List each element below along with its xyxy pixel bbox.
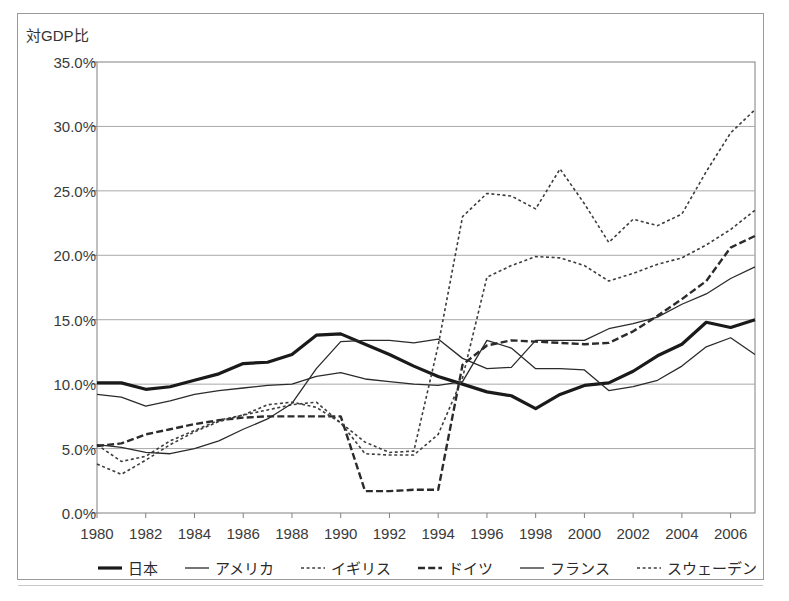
x-tick-label: 2000	[568, 525, 601, 542]
legend-label: ドイツ	[448, 561, 493, 576]
legend-item-イギリス[interactable]: イギリス	[300, 561, 391, 576]
x-tick-label: 1988	[275, 525, 308, 542]
legend-item-日本[interactable]: 日本	[97, 561, 158, 576]
x-tick-label: 1998	[519, 525, 552, 542]
legend-swatch-icon	[519, 563, 545, 573]
chart-legend: 日本アメリカイギリスドイツフランススウェーデン	[97, 553, 757, 583]
legend-item-スウェーデン[interactable]: スウェーデン	[636, 561, 757, 576]
legend-label: イギリス	[331, 561, 391, 576]
legend-divider	[18, 585, 763, 586]
x-tick-label: 2006	[714, 525, 747, 542]
x-tick-label: 1990	[324, 525, 357, 542]
legend-label: アメリカ	[215, 561, 274, 576]
legend-label: 日本	[128, 561, 158, 576]
legend-label: フランス	[550, 561, 610, 576]
x-tick-label: 1982	[129, 525, 162, 542]
x-tick-label: 1986	[227, 525, 260, 542]
legend-item-アメリカ[interactable]: アメリカ	[184, 561, 274, 576]
x-tick-label: 1984	[178, 525, 211, 542]
legend-item-フランス[interactable]: フランス	[519, 561, 610, 576]
legend-swatch-icon	[184, 563, 210, 573]
x-tick-label: 1994	[421, 525, 454, 542]
legend-swatch-icon	[300, 563, 326, 573]
x-tick-label: 2004	[665, 525, 698, 542]
legend-swatch-icon	[636, 563, 662, 573]
legend-swatch-icon	[417, 563, 443, 573]
legend-swatch-icon	[97, 563, 123, 573]
legend-label: スウェーデン	[667, 561, 757, 576]
x-tick-label: 1996	[470, 525, 503, 542]
legend-item-ドイツ[interactable]: ドイツ	[417, 561, 493, 576]
x-axis-ticks: 1980198219841986198819901992199419961998…	[0, 0, 789, 601]
x-tick-label: 2002	[616, 525, 649, 542]
x-tick-label: 1992	[373, 525, 406, 542]
x-tick-label: 1980	[80, 525, 113, 542]
